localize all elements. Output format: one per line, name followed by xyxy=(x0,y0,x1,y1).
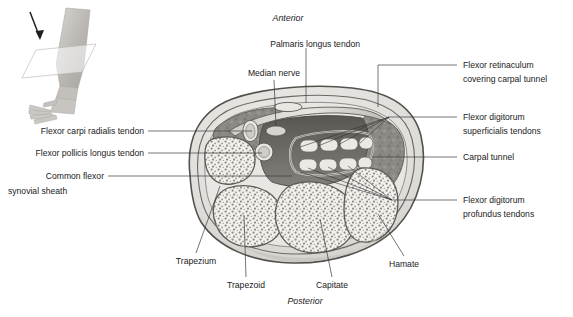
forearm-orientation-inset xyxy=(22,8,96,124)
label-flexor-digitorum-superficialis-line1: Flexor digitorum xyxy=(463,112,525,122)
label-trapezoid: Trapezoid xyxy=(227,280,265,290)
median-nerve xyxy=(266,126,286,136)
anatomy-figure-page: Anterior Posterior Palmaris longus tendo… xyxy=(0,0,573,317)
label-flexor-retinaculum-line1: Flexor retinaculum xyxy=(463,60,534,70)
label-flexor-digitorum-profundus-line2: profundus tendons xyxy=(463,209,534,219)
label-trapezium: Trapezium xyxy=(176,256,216,266)
direction-arrow xyxy=(30,12,44,40)
label-hamate: Hamate xyxy=(389,259,419,269)
palmaris-longus-tendon xyxy=(274,102,302,111)
section-plane xyxy=(22,44,96,78)
orientation-anterior-label: Anterior xyxy=(272,13,305,23)
label-flexor-digitorum-superficialis-line2: superficialis tendons xyxy=(463,126,541,136)
label-median-nerve: Median nerve xyxy=(248,68,300,78)
trapezium-bone xyxy=(205,137,255,184)
capitate-bone xyxy=(275,182,354,253)
carpal-tunnel-cross-section-figure: Anterior Posterior Palmaris longus tendo… xyxy=(0,0,573,317)
label-flexor-pollicis-longus-tendon: Flexor pollicis longus tendon xyxy=(36,148,145,158)
wrist-cross-section xyxy=(189,86,423,263)
label-carpal-tunnel: Carpal tunnel xyxy=(463,152,514,162)
label-flexor-digitorum-profundus-line1: Flexor digitorum xyxy=(463,195,525,205)
orientation-posterior-label: Posterior xyxy=(287,296,323,306)
label-capitate: Capitate xyxy=(316,280,348,290)
label-common-flexor-synovial-sheath-line2: synovial sheath xyxy=(8,186,67,196)
label-palmaris-longus-tendon: Palmaris longus tendon xyxy=(270,39,360,49)
label-common-flexor-synovial-sheath-line1: Common flexor xyxy=(46,171,104,181)
label-flexor-carpi-radialis-tendon: Flexor carpi radialis tendon xyxy=(41,126,144,136)
label-flexor-retinaculum-line2: covering carpal tunnel xyxy=(463,74,547,84)
